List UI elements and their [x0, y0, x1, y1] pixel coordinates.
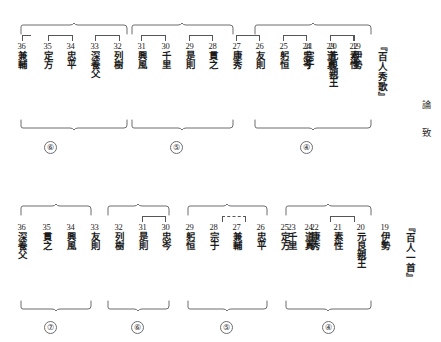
entry-21: 21 素性: [329, 223, 346, 250]
upper-brace-group-4: [254, 23, 372, 35]
entry-number: 29: [181, 42, 198, 51]
entry-number: 27: [228, 223, 245, 232]
group-number-5: ⑤: [170, 141, 183, 154]
entry-number: 33: [86, 42, 103, 51]
entry-30: 30 忠岑: [157, 223, 174, 250]
entry-number: 34: [62, 223, 79, 232]
entry-name: 素性: [332, 232, 342, 250]
entry-25: 25 躬恒: [275, 42, 292, 69]
entry-28: 28 貫之: [204, 42, 221, 69]
entry-22: 22 康秀: [306, 223, 323, 250]
lower-brace-group-7: [20, 301, 92, 313]
entry-19: 19 伊勢: [376, 223, 393, 250]
entry-number: 30: [157, 223, 174, 232]
entry-name: 忠平: [65, 51, 75, 69]
group-number-7: ⑦: [44, 321, 57, 334]
entry-number: 20: [352, 223, 369, 232]
collation-diagram-page: 36 兼輔 35 定方 34 忠平 33 深養父 32 列樹 31 興風 30 …: [0, 0, 441, 342]
entry-33: 33 友則: [86, 223, 103, 250]
entry-32: 32 列樹: [110, 223, 127, 250]
entry-name: 康秀: [231, 51, 241, 69]
entry-number: 26: [252, 223, 269, 232]
entry-number: 36: [13, 223, 30, 232]
entry-name: 列樹: [112, 51, 122, 69]
entry-27: 27 兼輔: [228, 223, 245, 250]
entry-number: 32: [110, 223, 127, 232]
lower-brace-group-4: [285, 301, 372, 313]
entry-name: 元良親王: [355, 232, 365, 268]
side-text-char-2: 致: [420, 128, 432, 138]
section-hyakunin-isshu: 36 深養父 35 貫之 34 興風 33 友則 32 列樹 31 是則 30 …: [0, 171, 441, 342]
entry-name: 伊勢: [351, 51, 361, 69]
entry-34: 34 忠平: [62, 42, 79, 69]
entry-number: 35: [39, 42, 56, 51]
entry-number: 23: [283, 223, 300, 232]
entry-name: 是則: [184, 51, 194, 69]
entry-name: 列樹: [113, 232, 123, 250]
entry-33: 33 深養父: [86, 42, 103, 78]
entry-29: 29 躬恒: [181, 223, 198, 250]
group-number-6: ⑥: [131, 321, 144, 334]
entry-number: 35: [38, 223, 55, 232]
lower-brace-group-4: [254, 120, 372, 132]
upper-brace-group-7: [20, 204, 92, 216]
entry-name: 友則: [254, 51, 264, 69]
entry-number: 20: [324, 42, 341, 51]
entry-28: 28 宗于: [205, 223, 222, 250]
entry-number: 21: [300, 42, 317, 51]
entry-35: 35 貫之: [38, 223, 55, 250]
entry-number: 22: [306, 223, 323, 232]
entry-19: 19 伊勢: [348, 42, 365, 69]
entry-number: 31: [133, 42, 150, 51]
entry-name: 元良親王: [327, 51, 337, 87]
entry-20: 20 元良親王: [352, 223, 369, 268]
entry-name: 千里: [160, 51, 170, 69]
group-number-4: ④: [322, 321, 335, 334]
entry-32: 32 列樹: [109, 42, 126, 69]
upper-brace-group-5: [131, 23, 234, 35]
entry-number: 26: [251, 42, 268, 51]
entry-26: 26 忠平: [252, 223, 269, 250]
entry-name: 兼輔: [16, 51, 26, 69]
entry-21: 21 宗于: [300, 42, 317, 69]
entry-name: 是則: [137, 232, 147, 250]
entry-name: 深養父: [16, 232, 26, 259]
section-title-hyakunin-isshu: 『百人一首』: [399, 223, 415, 283]
upper-brace-group-4: [285, 204, 372, 216]
entry-name: 千里: [286, 232, 296, 250]
entry-number: 32: [109, 42, 126, 51]
entry-31: 31 是則: [134, 223, 151, 250]
pair-bracket-20-19: [330, 35, 355, 41]
section-title-hyakunin-shuka: 『百人秀歌』: [371, 42, 387, 102]
group-number-5: ⑤: [220, 321, 233, 334]
entry-name: 躬恒: [278, 51, 288, 69]
entry-name: 躬恒: [184, 232, 194, 250]
lower-brace-group-5: [131, 120, 234, 132]
entry-number: 28: [204, 42, 221, 51]
entry-name: 伊勢: [379, 232, 389, 250]
entry-name: 康秀: [309, 232, 319, 250]
entry-number: 21: [329, 223, 346, 232]
entry-number: 19: [376, 223, 393, 232]
entry-36: 36 兼輔: [13, 42, 30, 69]
upper-brace-group-5: [187, 204, 268, 216]
entry-number: 25: [275, 42, 292, 51]
entry-number: 34: [62, 42, 79, 51]
upper-brace-group-6: [107, 204, 170, 216]
entry-name: 忠平: [255, 232, 265, 250]
entry-name: 宗于: [208, 232, 218, 250]
entry-34: 34 興風: [62, 223, 79, 250]
entry-name: 定方: [42, 51, 52, 69]
entry-number: 33: [86, 223, 103, 232]
entry-name: 宗于: [303, 51, 313, 69]
group-number-6: ⑥: [44, 141, 57, 154]
entry-30: 30 千里: [157, 42, 174, 69]
entry-27: 27 康秀: [228, 42, 245, 69]
entry-name: 友則: [89, 232, 99, 250]
entry-35: 35 定方: [39, 42, 56, 69]
entry-23: 23 千里: [283, 223, 300, 250]
entry-name: 興風: [136, 51, 146, 69]
entry-20: 20 元良親王: [324, 42, 341, 87]
entry-number: 31: [134, 223, 151, 232]
entry-36: 36 深養父: [13, 223, 30, 259]
